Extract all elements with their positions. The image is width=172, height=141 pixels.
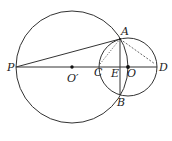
label-o: O xyxy=(127,67,136,80)
point-o-prime xyxy=(70,65,73,68)
segment-pa xyxy=(16,39,120,67)
label-o-prime: O′ xyxy=(67,72,79,85)
label-c: C xyxy=(94,66,103,79)
label-d: D xyxy=(158,61,168,74)
diagram-canvas: P O′ C E O D A B xyxy=(0,0,172,141)
label-e: E xyxy=(110,67,119,80)
geometry-figure: P O′ C E O D A B xyxy=(0,0,172,141)
point-a xyxy=(119,38,121,40)
segment-ad xyxy=(120,39,155,64)
label-b: B xyxy=(116,96,125,109)
label-p: P xyxy=(6,61,15,74)
label-a: A xyxy=(120,25,129,38)
